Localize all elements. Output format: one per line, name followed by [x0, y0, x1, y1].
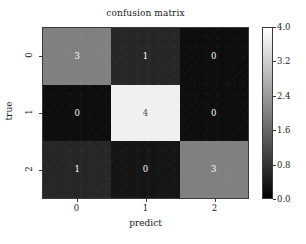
y-axis-label: true	[4, 86, 14, 136]
colorbar-tick-label: 1.6	[277, 125, 291, 135]
chart-title: confusion matrix	[42, 8, 249, 18]
x-tick-label: 0	[62, 203, 92, 213]
colorbar-tick-mark	[273, 199, 276, 200]
y-tick-mark	[39, 113, 42, 114]
colorbar-tick-label: 0.8	[277, 160, 291, 170]
heatmap-cell: 3	[180, 141, 248, 198]
y-tick-mark	[39, 56, 42, 57]
heatmap-cell: 1	[111, 28, 179, 85]
colorbar-tick-mark	[273, 96, 276, 97]
colorbar-tick-mark	[273, 27, 276, 28]
colorbar-tick-mark	[273, 130, 276, 131]
x-tick-mark	[215, 199, 216, 202]
heatmap-plot-area: 3 1 0 0 4 0 1 0 3	[42, 27, 249, 199]
x-tick-label: 2	[200, 203, 230, 213]
x-axis-label: predict	[42, 218, 249, 228]
x-tick-mark	[77, 199, 78, 202]
cell-value: 4	[143, 109, 148, 118]
cell-value: 0	[143, 165, 148, 174]
y-tick-mark	[39, 170, 42, 171]
colorbar-tick-label: 3.2	[277, 56, 291, 66]
y-tick-label: 1	[24, 105, 34, 119]
colorbar-tick-label: 4.0	[277, 22, 291, 32]
colorbar-tick-mark	[273, 61, 276, 62]
colorbar-tick-label: 2.4	[277, 91, 291, 101]
x-tick-mark	[146, 199, 147, 202]
heatmap-cell: 0	[180, 28, 248, 85]
cell-value: 0	[211, 52, 216, 61]
heatmap-cell: 1	[43, 141, 111, 198]
heatmap-cell: 0	[43, 85, 111, 142]
y-tick-label: 0	[24, 48, 34, 62]
y-tick-label: 2	[24, 162, 34, 176]
cell-value: 1	[143, 52, 148, 61]
confusion-matrix-figure: confusion matrix 3 1 0 0 4 0 1 0 3	[0, 0, 306, 244]
cell-value: 0	[211, 109, 216, 118]
cell-value: 0	[74, 109, 79, 118]
heatmap-cell: 4	[111, 85, 179, 142]
cell-value: 3	[211, 165, 216, 174]
colorbar-gradient	[263, 28, 272, 198]
heatmap-cell: 0	[180, 85, 248, 142]
x-tick-label: 1	[131, 203, 161, 213]
colorbar-tick-label: 0.0	[277, 194, 291, 204]
colorbar-tick-mark	[273, 165, 276, 166]
heatmap-cell: 3	[43, 28, 111, 85]
cell-value: 1	[74, 165, 79, 174]
cell-value: 3	[74, 52, 79, 61]
heatmap-cell: 0	[111, 141, 179, 198]
colorbar	[262, 27, 273, 199]
